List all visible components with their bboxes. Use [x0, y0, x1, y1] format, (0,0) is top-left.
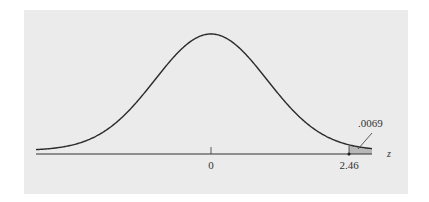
normal-curve-chart: 0 2.46 .0069 z [0, 0, 429, 202]
area-label: .0069 [358, 117, 383, 129]
axis-label-z: z [386, 148, 391, 159]
normal-curve [36, 34, 372, 150]
critical-point-marker [347, 152, 350, 155]
tick-label-critical: 2.46 [339, 159, 359, 171]
tick-label-zero: 0 [208, 159, 214, 171]
area-leader-line [358, 133, 372, 149]
